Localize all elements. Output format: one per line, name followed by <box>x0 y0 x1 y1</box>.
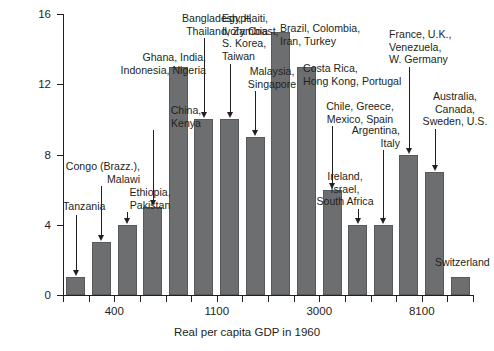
annotation-leader-line <box>409 67 410 148</box>
bar-annotation-label: Brazil, Colombia, Iran, Turkey <box>280 22 360 47</box>
x-axis-tick-label: 3000 <box>306 305 332 317</box>
annotation-leader-line <box>153 130 154 200</box>
y-axis-tick-label: 0 <box>0 289 51 301</box>
bar-annotation-label: Switzerland <box>435 256 490 269</box>
bar-annotation-label: Ireland, Israel, South Africa <box>316 170 373 208</box>
annotation-leader-line <box>101 186 102 235</box>
bar-annotation-label: Chile, Greece, Mexico, Spain <box>326 100 394 125</box>
bar-annotation-label: Congo (Brazz.), Malawi <box>66 160 140 185</box>
histogram-bar <box>118 225 137 295</box>
y-axis-tick-label: 16 <box>0 8 51 20</box>
x-axis-tick <box>217 296 218 302</box>
x-axis-tick-label: 8100 <box>409 305 435 317</box>
x-axis-tick <box>191 296 192 302</box>
annotation-leader-line <box>204 38 205 112</box>
y-axis-tick <box>57 155 63 156</box>
bar-annotation-label: Egypt, Ivory Coast, S. Korea, Taiwan <box>222 12 279 62</box>
bar-annotation-label: Tanzania <box>63 200 105 213</box>
histogram-bar <box>425 172 444 295</box>
histogram-bar <box>194 119 213 295</box>
annotation-arrowhead <box>380 218 386 224</box>
x-axis-tick <box>242 296 243 302</box>
x-axis-tick <box>63 296 64 302</box>
y-axis-tick <box>57 225 63 226</box>
y-axis-tick-label: 12 <box>0 78 51 90</box>
annotation-arrowhead <box>432 165 438 171</box>
annotation-arrowhead <box>406 148 412 154</box>
x-axis-tick <box>294 296 295 302</box>
histogram-bar <box>246 137 265 295</box>
annotation-leader-line <box>358 209 359 218</box>
annotation-arrowhead <box>124 218 130 224</box>
histogram-bar <box>348 225 367 295</box>
y-axis-tick <box>57 84 63 85</box>
annotation-leader-line <box>230 64 231 112</box>
x-axis-tick <box>396 296 397 302</box>
x-axis-tick-label: 400 <box>105 305 124 317</box>
x-axis-tick <box>140 296 141 302</box>
x-axis-tick <box>89 296 90 302</box>
bar-annotation-label: Argentina, Italy <box>352 124 400 149</box>
bar-annotation-label: China, Kenya <box>171 104 202 129</box>
y-axis-tick-label: 4 <box>0 219 51 231</box>
annotation-arrowhead <box>201 112 207 118</box>
x-axis-title: Real per capita GDP in 1960 <box>0 326 494 338</box>
x-axis-tick <box>114 296 115 302</box>
bar-annotation-label: Ghana, India, Indonesia, Nigeria <box>121 51 206 76</box>
x-axis-tick <box>166 296 167 302</box>
x-axis-tick <box>268 296 269 302</box>
x-axis-tick <box>473 296 474 302</box>
bar-annotation-label: France, U.K., Venezuela, W. Germany <box>389 28 451 66</box>
histogram-bar <box>169 67 188 295</box>
histogram-bar <box>374 225 393 295</box>
x-axis-tick-label: 1100 <box>204 305 229 317</box>
bar-annotation-label: Ethiopia, Pakistan <box>129 186 170 211</box>
histogram-bar <box>92 242 111 295</box>
bar-annotation-label: Costa Rica, Hong Kong, Portugal <box>303 62 401 87</box>
x-axis-tick <box>422 296 423 302</box>
histogram-bar <box>451 277 470 295</box>
annotation-arrowhead <box>227 112 233 118</box>
x-axis-tick <box>447 296 448 302</box>
annotation-leader-line <box>255 91 256 130</box>
bar-annotation-label: Malaysia, Singapore <box>248 65 296 90</box>
annotation-arrowhead <box>73 270 79 276</box>
annotation-arrowhead <box>252 130 258 136</box>
y-axis-tick <box>57 14 63 15</box>
annotation-leader-line <box>383 150 384 218</box>
histogram-bar <box>297 67 316 295</box>
histogram-bar <box>220 119 239 295</box>
y-axis-tick-label: 8 <box>0 149 51 161</box>
bar-annotation-label: Australia, Canada, Sweden, U.S. <box>423 90 488 128</box>
histogram-bar <box>143 207 162 295</box>
x-axis-tick <box>371 296 372 302</box>
x-axis-tick <box>345 296 346 302</box>
annotation-arrowhead <box>98 235 104 241</box>
annotation-arrowhead <box>355 218 361 224</box>
annotation-leader-line <box>435 129 436 165</box>
x-axis-tick <box>319 296 320 302</box>
annotation-leader-line <box>76 215 77 270</box>
annotation-arrowhead <box>150 200 156 206</box>
histogram-bar <box>399 155 418 296</box>
histogram-figure: Number of countries Real per capita GDP … <box>0 0 494 351</box>
histogram-bar <box>66 277 85 295</box>
